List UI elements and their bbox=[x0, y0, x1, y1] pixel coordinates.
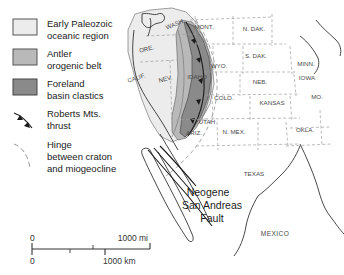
scale-label-km-end: 1000 km bbox=[103, 256, 136, 266]
state-label-minn: MINN. bbox=[297, 60, 315, 67]
legend-swatch-oceanic bbox=[13, 19, 37, 35]
state-label-n-mex: N. MEX. bbox=[222, 128, 245, 135]
legend-label-thrust-line2: thrust bbox=[47, 120, 71, 131]
scale-label-mi-start: 0 bbox=[30, 233, 35, 243]
legend-label-hinge-line3: and miogeocline bbox=[47, 163, 116, 174]
legend-label-oceanic-line1: Early Paleozoic bbox=[47, 18, 113, 29]
state-label-mo: MO. bbox=[311, 93, 323, 100]
san-andreas-line2: San Andreas bbox=[182, 199, 242, 211]
scale-label-mi-end: 1000 mi bbox=[118, 233, 148, 243]
san-andreas-line1: Neogene bbox=[187, 186, 230, 198]
geologic-map-figure: WASH. ORE. CALIF. NEV. MONT. IDAHO WYO. … bbox=[0, 0, 344, 275]
legend-label-hinge-line1: Hinge bbox=[47, 139, 72, 150]
state-label-kansas: KANSAS bbox=[259, 99, 284, 106]
legend-label-antler-line1: Antler bbox=[47, 48, 72, 59]
legend-label-antler-line2: orogenic belt bbox=[47, 60, 102, 71]
state-label-n-dak: N. DAK. bbox=[243, 25, 266, 32]
state-label-wyo: WYO. bbox=[211, 62, 228, 69]
legend-label-foreland-line1: Foreland bbox=[47, 78, 85, 89]
state-label-s-dak: S. DAK. bbox=[245, 52, 267, 59]
legend-label-thrust-line1: Roberts Mts. bbox=[47, 108, 101, 119]
legend-swatch-antler bbox=[13, 49, 37, 65]
san-andreas-line3: Fault bbox=[200, 212, 223, 224]
country-label-mexico: MEXICO bbox=[261, 230, 289, 237]
state-label-mont: MONT. bbox=[194, 23, 214, 30]
state-label-utah: UTAH bbox=[199, 118, 215, 125]
state-label-okla: OKLA. bbox=[296, 126, 315, 133]
state-label-texas: TEXAS bbox=[244, 170, 264, 177]
scale-label-km-start: 0 bbox=[30, 256, 35, 266]
state-label-iowa: IOWA bbox=[299, 74, 316, 81]
state-label-colo: COLO. bbox=[214, 94, 234, 101]
state-label-ariz: ARIZ. bbox=[186, 129, 202, 136]
legend-swatch-foreland bbox=[13, 79, 37, 95]
state-label-neb: NEB. bbox=[253, 78, 268, 85]
legend-label-foreland-line2: basin clastics bbox=[47, 90, 104, 101]
legend-label-oceanic-line2: oceanic region bbox=[47, 30, 109, 41]
legend-label-hinge-line2: between craton bbox=[47, 151, 112, 162]
state-label-idaho: IDAHO bbox=[187, 73, 207, 80]
